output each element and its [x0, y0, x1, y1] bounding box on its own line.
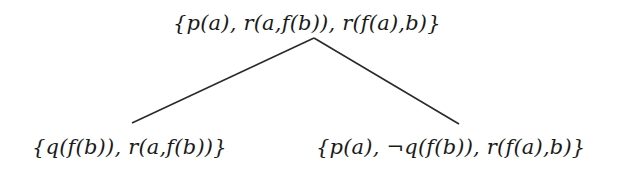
- root-node-label: {p(a), r(a,f(b)), r(f(a),b)}: [173, 13, 441, 34]
- left-child-node-label: {q(f(b)), r(a,f(b))}: [32, 137, 227, 158]
- right-child-node-label: {p(a), ¬q(f(b)), r(f(a),b)}: [316, 137, 585, 158]
- edge-root-to-left-child: [132, 38, 314, 123]
- edge-root-to-right-child: [314, 38, 459, 124]
